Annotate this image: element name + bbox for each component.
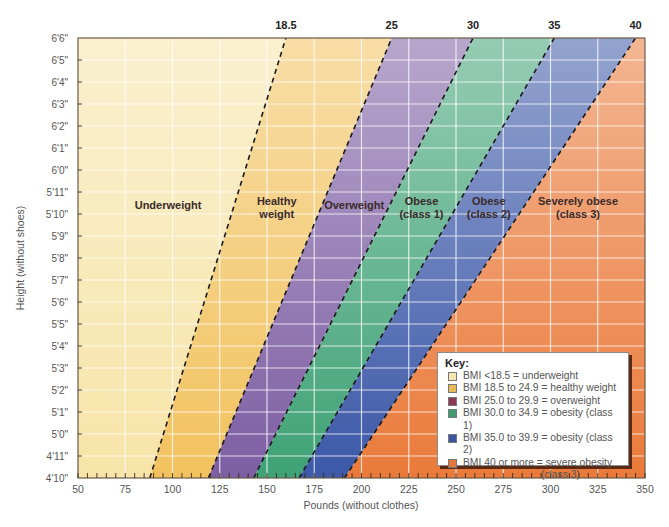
y-tick-label: 5'10" xyxy=(46,209,69,220)
x-tick-label: 50 xyxy=(72,483,84,495)
zone-label: (class 1) xyxy=(399,208,443,220)
x-tick-label: 100 xyxy=(164,483,182,495)
legend-text: BMI <18.5 = underweight xyxy=(463,370,578,382)
x-tick-label: 300 xyxy=(542,483,560,495)
y-tick-label: 6'5" xyxy=(51,55,68,66)
legend-swatch xyxy=(448,372,457,381)
legend-item: BMI 40 or more = severe obesity xyxy=(445,457,622,469)
zone-label: Overweight xyxy=(324,199,384,211)
legend-item: BMI 30.0 to 34.9 = obesity (class 1) xyxy=(445,407,622,432)
zone-label: Severely obese xyxy=(538,195,618,207)
zone-label: (class 2) xyxy=(467,208,511,220)
y-tick-label: 4'10" xyxy=(46,473,69,484)
x-tick-label: 150 xyxy=(258,483,276,495)
x-tick-label: 325 xyxy=(589,483,607,495)
x-tick-label: 200 xyxy=(353,483,371,495)
legend-text: BMI 25.0 to 29.9 = overweight xyxy=(463,395,600,407)
y-tick-label: 5'11" xyxy=(47,187,69,198)
zone-label: Underweight xyxy=(135,199,202,211)
y-tick-label: 5'6" xyxy=(51,297,68,308)
x-tick-label: 250 xyxy=(447,483,465,495)
zone-label: (class 3) xyxy=(556,208,600,220)
bmi-value-label: 35 xyxy=(548,19,560,31)
y-tick-label: 6'1" xyxy=(51,143,68,154)
y-axis-ticks: 4'10"4'11"5'0"5'1"5'2"5'3"5'4"5'5"5'6"5'… xyxy=(46,33,82,484)
x-tick-label: 225 xyxy=(400,483,418,495)
legend-swatch xyxy=(448,459,457,468)
y-tick-label: 6'2" xyxy=(51,121,68,132)
zone-label: Obese xyxy=(472,195,506,207)
y-tick-label: 5'8" xyxy=(51,253,68,264)
bmi-value-label: 30 xyxy=(467,19,479,31)
legend-item: BMI 25.0 to 29.9 = overweight xyxy=(445,395,622,407)
y-tick-label: 5'5" xyxy=(51,319,68,330)
zone-label: Obese xyxy=(405,195,439,207)
legend-text: BMI 40 or more = severe obesity xyxy=(463,457,612,469)
legend-swatch xyxy=(448,434,457,443)
legend-swatch xyxy=(448,384,457,393)
x-tick-label: 350 xyxy=(636,483,654,495)
x-tick-label: 275 xyxy=(494,483,512,495)
legend-text: BMI 30.0 to 34.9 = obesity (class 1) xyxy=(463,407,622,432)
y-tick-label: 5'9" xyxy=(51,231,68,242)
y-tick-label: 6'4" xyxy=(51,77,68,88)
y-tick-label: 5'0" xyxy=(51,429,68,440)
bmi-value-label: 25 xyxy=(386,19,398,31)
legend-swatch xyxy=(448,409,457,418)
y-tick-label: 5'2" xyxy=(51,385,68,396)
legend-continuation: (class 3) xyxy=(445,469,622,481)
y-tick-label: 6'0" xyxy=(51,165,68,176)
y-tick-label: 6'3" xyxy=(51,99,68,110)
legend-key: Key: BMI <18.5 = underweightBMI 18.5 to … xyxy=(437,352,629,466)
bmi-value-label: 40 xyxy=(629,19,641,31)
y-tick-label: 5'1" xyxy=(51,407,68,418)
x-axis-title: Pounds (without clothes) xyxy=(304,499,419,511)
legend-title: Key: xyxy=(445,357,622,369)
x-tick-label: 75 xyxy=(119,483,131,495)
y-tick-label: 5'4" xyxy=(51,341,68,352)
legend-swatch xyxy=(448,397,457,406)
legend-text: BMI 18.5 to 24.9 = healthy weight xyxy=(463,382,616,394)
legend-item: BMI <18.5 = underweight xyxy=(445,370,622,382)
legend-text: BMI 35.0 to 39.9 = obesity (class 2) xyxy=(463,432,622,457)
y-tick-label: 5'3" xyxy=(51,363,68,374)
bmi-top-labels: 18.525303540 xyxy=(275,19,641,31)
legend-item: BMI 18.5 to 24.9 = healthy weight xyxy=(445,382,622,394)
y-tick-label: 4'11" xyxy=(47,451,69,462)
x-tick-label: 175 xyxy=(305,483,323,495)
zone-label: Healthy xyxy=(257,195,298,207)
x-tick-label: 125 xyxy=(211,483,229,495)
bmi-value-label: 18.5 xyxy=(275,19,296,31)
y-tick-label: 6'6" xyxy=(51,33,68,44)
y-axis-title: Height (without shoes) xyxy=(14,206,26,310)
legend-item: BMI 35.0 to 39.9 = obesity (class 2) xyxy=(445,432,622,457)
y-tick-label: 5'7" xyxy=(51,275,68,286)
zone-label: weight xyxy=(258,208,294,220)
